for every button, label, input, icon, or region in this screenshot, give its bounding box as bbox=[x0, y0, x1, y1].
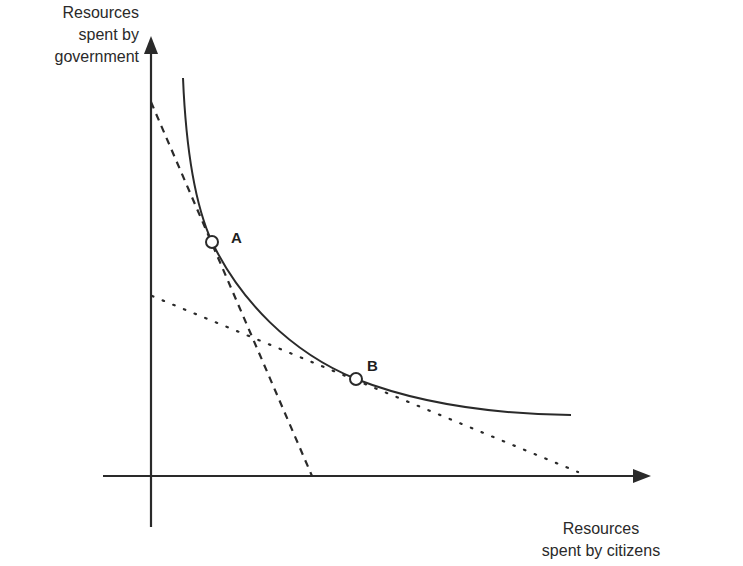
dashed-line bbox=[151, 102, 312, 476]
dotted-line bbox=[152, 296, 578, 472]
y-axis-arrow-icon bbox=[144, 36, 158, 54]
point-a-marker bbox=[206, 236, 218, 248]
point-b-label: B bbox=[367, 357, 378, 374]
x-axis-label-line-1: Resources bbox=[501, 518, 701, 540]
x-axis-arrow-icon bbox=[633, 469, 651, 483]
diagram-canvas: Resources spent by government Resources … bbox=[0, 0, 743, 566]
diagram-svg bbox=[0, 0, 743, 566]
point-b-marker bbox=[350, 373, 362, 385]
y-axis-label: Resources spent by government bbox=[55, 2, 140, 68]
point-a-label: A bbox=[231, 229, 242, 246]
x-axis-label-line-2: spent by citizens bbox=[501, 540, 701, 562]
y-axis-label-line-1: Resources bbox=[55, 2, 140, 24]
x-axis-label: Resources spent by citizens bbox=[501, 518, 701, 562]
y-axis-label-line-2: spent by bbox=[55, 24, 140, 46]
y-axis-label-line-3: government bbox=[55, 46, 140, 68]
